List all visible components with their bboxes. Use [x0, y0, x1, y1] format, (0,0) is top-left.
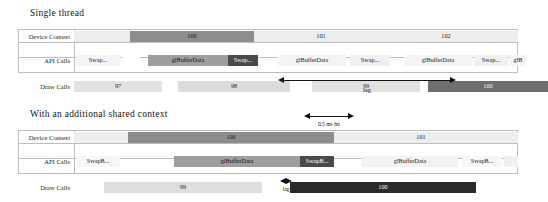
timeline-segment[interactable]: 98 [178, 81, 290, 92]
track-device-context: 100 101 102 [74, 31, 518, 42]
timeline-segment-label: 99 [180, 184, 186, 190]
timeline-segment-label: 97 [115, 83, 121, 89]
timeline-segment[interactable] [122, 55, 140, 66]
row-api-calls: API Calls SwapB... glBufferData SwapB...… [18, 156, 518, 167]
grid-line-mid-1 [18, 143, 518, 144]
timeline-segment[interactable]: glBufferData [174, 156, 300, 167]
timeline-segment-label: 101 [316, 33, 325, 39]
row-label-draw-calls: Draw Calls [18, 84, 70, 91]
row-api-calls: API Calls Swap... glBufferData Swap... g… [18, 55, 518, 66]
track-api-calls: Swap... glBufferData Swap... glBufferDat… [74, 55, 518, 66]
lag-measure-arrow [280, 176, 292, 185]
timeline-segment[interactable]: 101 [254, 31, 388, 42]
row-device-context: Device Context 100 101 102 [18, 31, 518, 42]
track-device-context: 100 101 [74, 132, 518, 143]
timeline-segment-label: glBufferData [172, 57, 205, 63]
timeline-segment[interactable]: SwapB... [462, 156, 502, 167]
timeline-segment[interactable]: 97 [74, 81, 162, 92]
track-api-calls: SwapB... glBufferData SwapB... glBufferD… [74, 156, 518, 167]
timeline-segment-label: Swap... [482, 57, 500, 63]
timeline-segment-label: Swap... [89, 57, 107, 63]
hit-caption: 0.5 ms hit [304, 122, 354, 128]
timeline-segment[interactable]: Swap... [228, 55, 258, 66]
timeline-segment[interactable]: glBufferData [404, 55, 472, 66]
hit-measure-arrow [304, 111, 354, 120]
timeline-segment[interactable]: glB [510, 55, 526, 66]
timeline-segment[interactable] [74, 31, 130, 42]
timeline-segment-label: 100 [378, 184, 387, 190]
panel-title-single-thread: Single thread [30, 8, 84, 18]
timeline-segment[interactable] [508, 132, 518, 143]
timeline-segment-label: 98 [231, 83, 237, 89]
timeline-segment[interactable]: 100 [130, 31, 254, 42]
row-label-device-context: Device Context [18, 34, 70, 41]
arrow-head-right [348, 113, 354, 119]
timeline-segment-label: Swap... [234, 57, 252, 63]
timeline-segment[interactable]: glBufferData [148, 55, 228, 66]
timeline-segment[interactable] [504, 156, 518, 167]
row-label-draw-calls: Draw Calls [18, 185, 70, 192]
timeline-segment[interactable]: SwapB... [76, 156, 120, 167]
panel-title-shared-context: With an additional shared context [30, 109, 168, 119]
arrow-line [309, 116, 349, 117]
row-label-api-calls: API Calls [18, 159, 70, 166]
timeline-segment-label: SwapB... [471, 158, 494, 164]
lag-caption: lag [278, 87, 456, 94]
arrow-head-right [286, 178, 292, 184]
timeline-segment-label: 100 [226, 134, 235, 140]
timeline-segment[interactable]: Swap... [76, 55, 120, 66]
timeline-segment-label: 102 [441, 33, 450, 39]
timeline-segment-label: SwapB... [87, 158, 110, 164]
timeline-segment[interactable]: 101 [334, 132, 508, 143]
arrow-head-right [450, 77, 456, 83]
timeline-segment-label: 100 [187, 33, 196, 39]
row-label-api-calls: API Calls [18, 58, 70, 65]
timeline-segment[interactable]: SwapB... [300, 156, 334, 167]
timeline-segment-label: glB [514, 57, 523, 63]
timeline-segment[interactable] [504, 31, 518, 42]
row-device-context: Device Context 100 101 [18, 132, 518, 143]
grid-line-bottom [18, 72, 518, 73]
timeline-segment[interactable]: 100 [290, 182, 476, 193]
timeline-segment-label: glBufferData [221, 158, 254, 164]
timeline-segment[interactable]: glBufferData [362, 156, 458, 167]
arrow-head-left [304, 113, 310, 119]
timeline-segment-label: glBufferData [296, 57, 329, 63]
timeline-segment-label: Swap... [361, 57, 379, 63]
timeline-segment-label: 100 [483, 83, 492, 89]
timeline-segment[interactable] [74, 132, 128, 143]
timeline-segment[interactable]: Swap... [350, 55, 390, 66]
timeline-segment[interactable]: 102 [388, 31, 504, 42]
lag-measure-arrow [278, 75, 456, 84]
track-draw-calls: 99 100 [74, 182, 518, 193]
arrow-line [283, 80, 451, 81]
timeline-segment-label: glBufferData [422, 57, 455, 63]
timeline-segment[interactable]: 100 [128, 132, 334, 143]
row-draw-calls: Draw Calls 99 100 [18, 182, 518, 193]
panel-single-thread: Single thread Device Context 100 101 102… [0, 0, 534, 101]
grid-line-top [18, 130, 518, 131]
timeline-segment-label: SwapB... [306, 158, 329, 164]
arrow-head-left [278, 77, 284, 83]
grid-line-bottom [18, 173, 518, 174]
row-label-device-context: Device Context [18, 135, 70, 142]
grid-line-mid-1 [18, 42, 518, 43]
timeline-segment-label: 101 [416, 134, 425, 140]
lag-caption: lag [280, 187, 292, 193]
timeline-segment[interactable]: 99 [104, 182, 262, 193]
timeline-segment-label: glBufferData [394, 158, 427, 164]
panel-shared-context: With an additional shared context 0.5 ms… [0, 101, 534, 202]
grid-line-top [18, 29, 518, 30]
timeline-segment[interactable]: glBufferData [278, 55, 346, 66]
timeline-segment[interactable]: Swap... [474, 55, 508, 66]
